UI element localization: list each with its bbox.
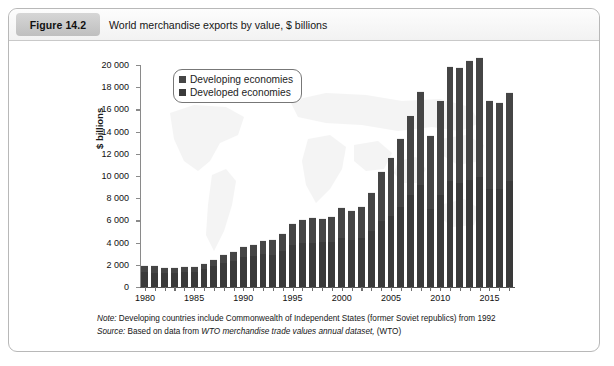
bar-column <box>447 65 454 287</box>
bar-segment-developed <box>388 216 395 287</box>
bar-segment-developing <box>476 57 483 177</box>
bar-segment-developed <box>191 272 198 287</box>
y-tick-mark <box>136 154 140 155</box>
x-tick-mark <box>371 287 372 291</box>
source-line: Source: Based on data from WTO merchandi… <box>97 325 567 338</box>
y-tick-mark <box>136 87 140 88</box>
bar-column <box>319 65 326 287</box>
x-tick-mark <box>440 287 441 291</box>
bar-segment-developed <box>466 180 473 287</box>
bar-segment-developing <box>456 67 463 183</box>
bar-segment-developed <box>309 243 316 288</box>
bar-segment-developed <box>201 269 208 287</box>
bar-segment-developing <box>269 239 276 255</box>
bar-segment-developed <box>230 261 237 287</box>
bar-segment-developed <box>407 195 414 287</box>
bar-column <box>309 65 316 287</box>
note-text: Developing countries include Commonwealt… <box>117 314 496 323</box>
x-tick-mark <box>499 287 500 291</box>
bar-segment-developed <box>279 251 286 287</box>
bar-segment-developing <box>141 265 148 273</box>
x-tick-mark <box>263 287 264 291</box>
y-tick-mark <box>136 65 140 66</box>
x-tick-label: 1980 <box>125 293 165 303</box>
bar-segment-developing <box>397 138 404 207</box>
x-tick-mark <box>450 287 451 291</box>
x-tick-mark <box>302 287 303 291</box>
bar-segment-developing <box>210 259 217 267</box>
bar-column <box>456 65 463 287</box>
y-tick-mark <box>136 220 140 221</box>
x-tick-mark <box>460 287 461 291</box>
bar-segment-developing <box>417 91 424 185</box>
legend-swatch-developed <box>179 89 186 96</box>
y-tick-label: 4 000 <box>77 238 129 248</box>
legend-label-developed: Developed economies <box>190 87 291 98</box>
y-tick-mark <box>136 243 140 244</box>
y-tick-mark <box>136 265 140 266</box>
y-tick-mark <box>136 132 140 133</box>
x-tick-mark <box>293 287 294 291</box>
x-tick-label: 2000 <box>322 293 362 303</box>
bar-segment-developing <box>230 251 237 261</box>
bar-segment-developed <box>319 242 326 287</box>
y-tick-label: 14 000 <box>77 127 129 137</box>
x-tick-mark <box>391 287 392 291</box>
x-tick-mark <box>234 287 235 291</box>
bar-column <box>388 65 395 287</box>
bar-segment-developing <box>191 266 198 272</box>
y-tick-mark <box>136 287 140 288</box>
x-tick-mark <box>273 287 274 291</box>
x-tick-mark <box>224 287 225 291</box>
bar-column <box>437 65 444 287</box>
bar-segment-developing <box>260 240 267 254</box>
bar-segment-developing <box>368 192 375 231</box>
bar-segment-developed <box>476 177 483 287</box>
x-axis-line <box>140 287 515 288</box>
x-tick-mark <box>322 287 323 291</box>
bar-segment-developing <box>161 267 168 273</box>
source-text-pre: Based on data from <box>125 327 201 336</box>
bar-segment-developed <box>348 240 355 287</box>
legend-label-developing: Developing economies <box>190 74 293 85</box>
x-tick-label: 1995 <box>273 293 313 303</box>
bar-segment-developing <box>496 102 503 189</box>
x-tick-mark <box>312 287 313 291</box>
bar-segment-developed <box>299 243 306 287</box>
chart-legend: Developing economies Developed economies <box>173 69 302 103</box>
x-tick-mark <box>509 287 510 291</box>
y-axis-title: $ billions <box>94 135 105 149</box>
x-tick-mark <box>470 287 471 291</box>
bar-column <box>141 65 148 287</box>
y-tick-label: 18 000 <box>77 82 129 92</box>
bar-segment-developing <box>466 60 473 180</box>
bar-segment-developing <box>328 216 335 242</box>
bar-segment-developing <box>358 206 365 239</box>
x-tick-mark <box>184 287 185 291</box>
x-tick-mark <box>155 287 156 291</box>
y-tick-label: 0 <box>77 282 129 292</box>
bar-segment-developing <box>181 266 188 273</box>
bar-segment-developed <box>151 273 158 287</box>
bar-column <box>466 65 473 287</box>
bar-segment-developed <box>417 185 424 287</box>
x-tick-mark <box>253 287 254 291</box>
x-tick-mark <box>411 287 412 291</box>
bar-segment-developing <box>201 263 208 270</box>
bar-segment-developed <box>427 209 434 287</box>
bar-segment-developing <box>447 66 454 181</box>
bar-segment-developing <box>240 246 247 257</box>
note-label: Note: <box>97 314 117 323</box>
y-tick-mark <box>136 198 140 199</box>
bar-segment-developing <box>289 223 296 245</box>
bar-column <box>427 65 434 287</box>
x-tick-mark <box>361 287 362 291</box>
x-tick-mark <box>194 287 195 291</box>
bar-segment-developing <box>378 171 385 221</box>
bar-segment-developed <box>486 189 493 287</box>
bar-column <box>151 65 158 287</box>
bar-segment-developing <box>309 217 316 243</box>
bar-segment-developed <box>141 272 148 287</box>
bar-segment-developing <box>220 254 227 263</box>
bar-segment-developed <box>368 231 375 287</box>
